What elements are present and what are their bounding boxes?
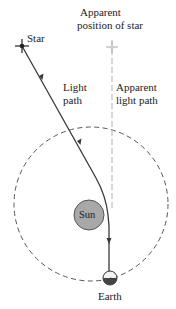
star-label: Star bbox=[27, 32, 45, 44]
sun-label: Sun bbox=[79, 209, 95, 221]
apparent-position-label-line2: position of star bbox=[77, 19, 143, 31]
light-path-label-line2: path bbox=[63, 94, 82, 106]
apparent-light-path-label-line1: Apparent bbox=[116, 81, 157, 93]
apparent-light-path-label-line2: light path bbox=[116, 94, 158, 106]
light-path-line bbox=[22, 46, 109, 272]
apparent-star-icon bbox=[106, 41, 118, 53]
arrow-icon bbox=[107, 238, 112, 244]
earth-icon bbox=[103, 271, 117, 285]
gravitational-lensing-diagram bbox=[0, 0, 176, 309]
light-path-label-line1: Light bbox=[63, 81, 87, 93]
earth-label: Earth bbox=[98, 290, 122, 302]
apparent-position-label-line1: Apparent bbox=[80, 6, 121, 18]
